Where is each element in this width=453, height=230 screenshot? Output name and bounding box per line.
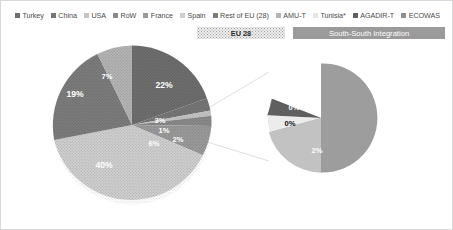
pie-chart-area: 22% 3% 1% 2% 6% 40% 19% 7% 1% <box>1 1 453 230</box>
main-label-turkey: 22% <box>155 80 173 90</box>
detail-pie: 1% 0% 0% 2% <box>267 63 377 172</box>
detail-label-ecowas: 2% <box>312 146 323 155</box>
detail-label-tunisia: 0% <box>285 119 296 128</box>
detail-label-agadir-t: 0% <box>289 103 300 112</box>
main-label-usa: 1% <box>159 126 170 135</box>
main-pie: 22% 3% 1% 2% 6% 40% 19% 7% <box>53 45 212 204</box>
main-label-rest-of-eu: 19% <box>66 89 84 99</box>
main-label-france: 6% <box>149 139 160 148</box>
main-label-spain: 40% <box>95 160 113 170</box>
detail-label-amu-t: 1% <box>306 71 317 80</box>
pie-of-pie-figure: Turkey China USA RoW France Spain Rest o… <box>0 0 453 230</box>
main-label-row: 2% <box>173 135 184 144</box>
main-label-amu-t: 7% <box>102 72 113 81</box>
main-label-china: 3% <box>155 116 166 125</box>
main-pie-texture <box>53 46 212 205</box>
